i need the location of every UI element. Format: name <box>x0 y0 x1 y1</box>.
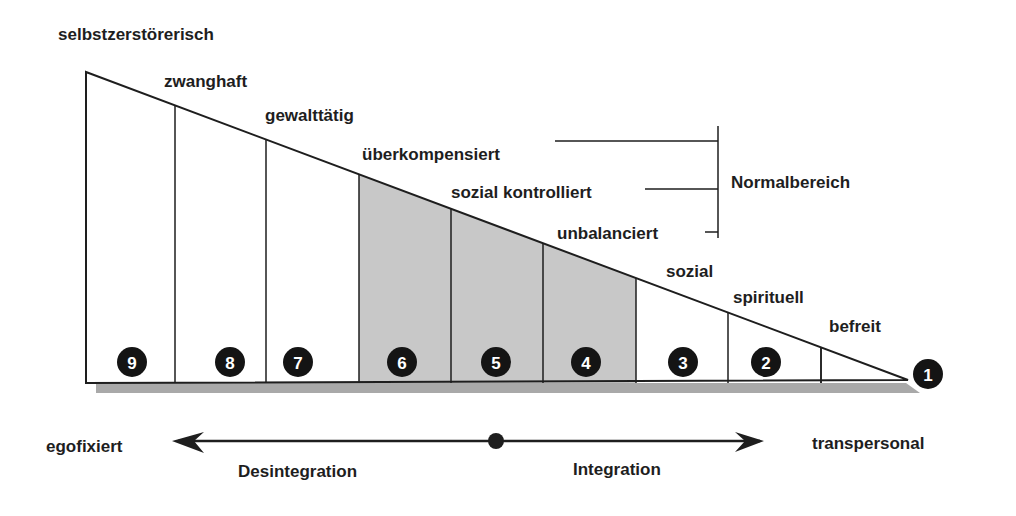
badge-number: 8 <box>225 354 234 373</box>
enneagram-levels-diagram: 987654321 selbstzerstörerisch zwanghaft … <box>0 0 1016 516</box>
level-badge-4: 4 <box>571 347 601 377</box>
stage-label-7: gewalttätig <box>265 106 354 125</box>
badge-number: 6 <box>397 354 406 373</box>
level-badge-6: 6 <box>387 347 417 377</box>
level-badge-3: 3 <box>668 347 698 377</box>
axis-left-label: egofixiert <box>46 437 123 456</box>
stage-label-9: selbstzerstörerisch <box>58 25 214 44</box>
base-shadow <box>96 383 920 393</box>
integration-label: Integration <box>573 460 661 479</box>
stage-label-2: spirituell <box>733 288 804 307</box>
center-point-icon <box>488 433 504 449</box>
level-badge-8: 8 <box>215 347 245 377</box>
arrow-left-icon <box>172 432 204 453</box>
stage-label-8: zwanghaft <box>164 72 247 91</box>
level-badge-5: 5 <box>481 347 511 377</box>
level-badge-1: 1 <box>913 359 943 389</box>
level-badge-7: 7 <box>283 347 313 377</box>
normal-range-bracket <box>555 126 718 238</box>
level-badge-9: 9 <box>117 347 147 377</box>
desintegration-label: Desintegration <box>238 462 357 481</box>
stage-label-6: überkompensiert <box>362 145 500 164</box>
normal-range-label: Normalbereich <box>731 173 850 192</box>
badge-number: 2 <box>761 354 770 373</box>
stage-label-5: sozial kontrolliert <box>451 183 592 202</box>
level-badge-2: 2 <box>751 347 781 377</box>
badge-number: 1 <box>923 366 932 385</box>
badge-number: 4 <box>581 354 591 373</box>
badge-number: 7 <box>293 354 302 373</box>
badge-number: 5 <box>491 354 500 373</box>
stage-label-1: befreit <box>829 317 881 336</box>
stage-label-3: sozial <box>666 262 713 281</box>
axis-right-label: transpersonal <box>812 434 924 453</box>
badge-number: 3 <box>678 354 687 373</box>
stage-label-4: unbalanciert <box>557 224 658 243</box>
badge-number: 9 <box>127 354 136 373</box>
